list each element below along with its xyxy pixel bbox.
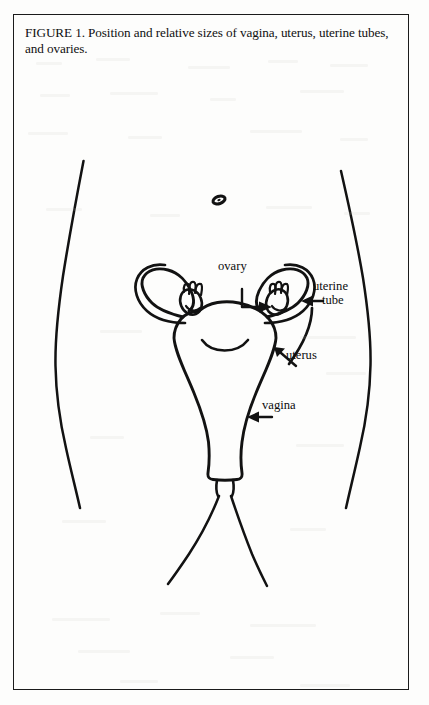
left-uterine-tube [142, 269, 193, 317]
vagina-leader-arrow [247, 412, 272, 423]
figure-page: FIGURE 1. Position and relative sizes of… [0, 0, 429, 705]
uterus-body [174, 302, 276, 481]
left-body-outline [55, 161, 83, 508]
navel-icon [212, 195, 226, 206]
uterus-fundus-fold [202, 340, 248, 351]
vagina-opening [216, 480, 233, 496]
right-inner-thigh [231, 496, 267, 586]
label-uterus: uterus [286, 348, 317, 362]
label-uterine-tube-line2: tube [313, 293, 348, 307]
right-ovary [262, 282, 291, 318]
label-uterine-tube-line1: uterine [313, 279, 348, 293]
label-ovary: ovary [218, 259, 247, 273]
left-inner-thigh [168, 496, 219, 584]
label-vagina: vagina [262, 398, 296, 412]
label-uterine-tube: uterinetube [313, 279, 348, 307]
right-body-outline [341, 171, 371, 508]
anatomical-illustration [13, 14, 409, 690]
